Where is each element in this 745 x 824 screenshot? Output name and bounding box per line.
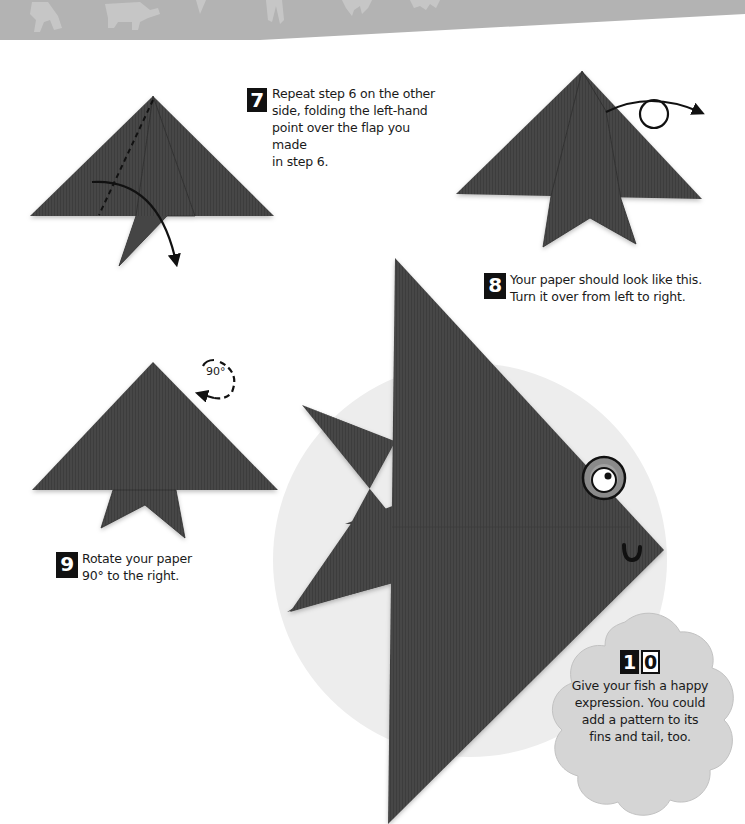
- step10-number: 1 0: [560, 650, 720, 674]
- fish-eye-icon: [583, 457, 625, 499]
- turn-over-arrow-icon: [606, 101, 700, 112]
- step8-line: Your paper should look like this.: [510, 271, 724, 288]
- step7-line: Repeat step 6 on the other: [272, 85, 440, 102]
- rotation-label: 90°: [206, 365, 226, 378]
- turn-over-loop: [640, 100, 668, 128]
- step9-instructions: 9 Rotate your paper 90° to the right.: [56, 550, 226, 584]
- step9-line: 90° to the right.: [82, 567, 226, 584]
- step9-diagram: [32, 362, 278, 538]
- step9-line: Rotate your paper: [82, 550, 226, 567]
- step8-instructions: 8 Your paper should look like this. Turn…: [484, 271, 724, 305]
- step7-diagram: [30, 96, 274, 266]
- step9-number: 9: [56, 552, 78, 578]
- step10-line: Give your fish a happy: [560, 677, 720, 694]
- step10-line: fins and tail, too.: [560, 728, 720, 745]
- step8-diagram: [456, 71, 702, 247]
- rotate-arrow-icon: [200, 394, 214, 398]
- step7-line: side, folding the left-hand: [250, 102, 440, 119]
- step7-instructions: 7 Repeat step 6 on the other side, foldi…: [250, 85, 440, 170]
- step10-line: expression. You could: [560, 694, 720, 711]
- step7-line: point over the flap you made: [250, 119, 440, 153]
- step7-line: in step 6.: [250, 153, 440, 170]
- step10-line: add a pattern to its: [560, 711, 720, 728]
- step8-line: Turn it over from left to right.: [510, 288, 724, 305]
- step8-number: 8: [484, 273, 506, 299]
- step10-instructions: 1 0 Give your fish a happy expression. Y…: [560, 650, 720, 745]
- step7-number: 7: [247, 88, 267, 112]
